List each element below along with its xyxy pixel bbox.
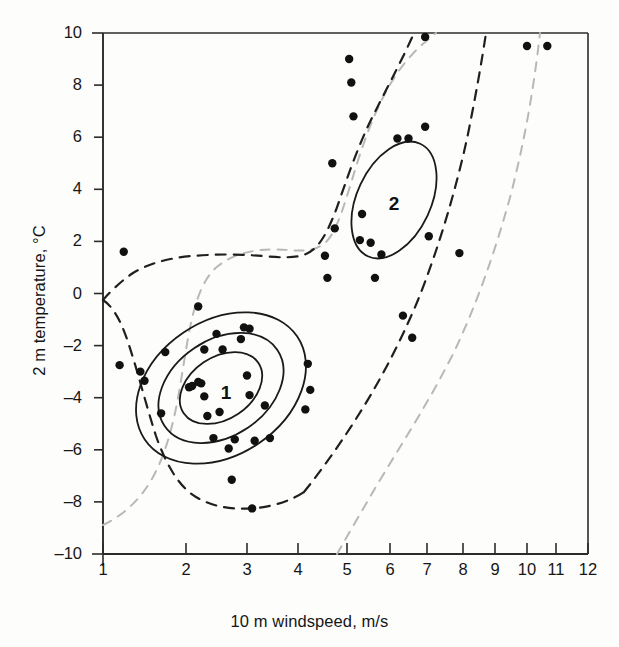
data-point <box>345 55 353 63</box>
figure-canvas: 10 m windspeed, m/s 2 m temperature, °C … <box>0 0 619 647</box>
data-point <box>115 361 123 369</box>
data-point <box>404 134 412 142</box>
data-point <box>358 210 366 218</box>
y-tick-label: 2 <box>30 231 82 251</box>
data-point <box>371 274 379 282</box>
data-point <box>200 392 208 400</box>
data-point <box>349 112 357 120</box>
x-tick-label: 7 <box>407 560 447 579</box>
data-point <box>455 249 463 257</box>
y-tick-label: 10 <box>30 23 82 43</box>
x-tick-label: 2 <box>166 560 206 579</box>
data-point <box>228 476 236 484</box>
plot-frame <box>103 33 588 554</box>
data-point <box>408 334 416 342</box>
x-axis-title: 10 m windspeed, m/s <box>0 612 619 631</box>
x-tick-label: 6 <box>370 560 410 579</box>
data-point <box>218 345 226 353</box>
data-point <box>399 311 407 319</box>
data-point <box>543 42 551 50</box>
data-point <box>331 224 339 232</box>
data-point <box>197 379 205 387</box>
x-tick-label: 3 <box>227 560 267 579</box>
data-point <box>266 434 274 442</box>
data-point <box>304 360 312 368</box>
scatter-points-group <box>115 33 551 513</box>
outer-dashed-contour <box>103 33 436 525</box>
x-tick-label: 4 <box>278 560 318 579</box>
data-point <box>250 436 258 444</box>
data-point <box>425 232 433 240</box>
data-point <box>140 377 148 385</box>
y-tick-label: –4 <box>30 388 82 408</box>
data-point <box>209 434 217 442</box>
data-point <box>245 391 253 399</box>
data-point <box>377 250 385 258</box>
data-point <box>393 134 401 142</box>
inner-dashed-contour-right <box>304 33 486 492</box>
data-point <box>203 412 211 420</box>
data-point <box>136 367 144 375</box>
data-point <box>366 239 374 247</box>
y-tick-label: 4 <box>30 179 82 199</box>
data-point <box>301 405 309 413</box>
data-point <box>161 348 169 356</box>
data-point <box>194 302 202 310</box>
data-point <box>523 42 531 50</box>
cluster-label-1: 1 <box>221 382 232 404</box>
inner-dashed-contour-upper <box>103 33 414 300</box>
cluster-label-2: 2 <box>389 193 400 215</box>
data-point <box>237 335 245 343</box>
data-point <box>261 401 269 409</box>
plot-svg <box>0 0 619 647</box>
data-point <box>356 236 364 244</box>
y-tick-label: –2 <box>30 336 82 356</box>
data-point <box>248 504 256 512</box>
data-point <box>421 123 429 131</box>
y-tick-label: –10 <box>30 544 82 564</box>
x-tick-label: 1 <box>83 560 123 579</box>
data-point <box>157 409 165 417</box>
outer-dashed-contour-right <box>337 33 540 554</box>
inner-dashed-contour <box>103 300 304 509</box>
data-point <box>328 159 336 167</box>
data-point <box>243 371 251 379</box>
data-point <box>225 444 233 452</box>
data-point <box>200 345 208 353</box>
data-point <box>212 330 220 338</box>
x-tick-label: 5 <box>327 560 367 579</box>
data-point <box>215 408 223 416</box>
y-tick-label: 8 <box>30 75 82 95</box>
data-point <box>231 435 239 443</box>
data-point <box>120 248 128 256</box>
data-point <box>347 78 355 86</box>
y-tick-label: –8 <box>30 492 82 512</box>
data-point <box>421 33 429 41</box>
y-axis-ticks <box>92 33 103 554</box>
x-tick-label: 12 <box>568 560 608 579</box>
data-point <box>323 274 331 282</box>
y-tick-label: –6 <box>30 440 82 460</box>
y-tick-label: 6 <box>30 127 82 147</box>
data-point <box>306 386 314 394</box>
data-point <box>321 252 329 260</box>
y-tick-label: 0 <box>30 284 82 304</box>
data-point <box>245 324 253 332</box>
